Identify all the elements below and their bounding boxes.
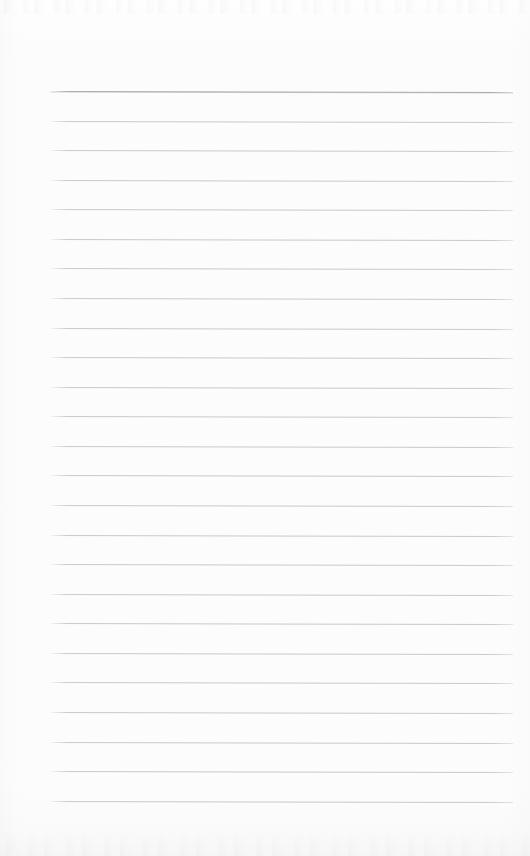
rule-line <box>50 268 513 270</box>
rule-line <box>50 594 513 596</box>
rule-line <box>50 712 513 714</box>
rule-line <box>50 357 513 359</box>
rule-line <box>50 180 513 182</box>
rule-line <box>50 801 513 803</box>
rule-line <box>50 328 513 330</box>
rule-line <box>50 475 513 477</box>
rule-line <box>50 535 513 537</box>
rule-line <box>50 150 513 152</box>
ruled-writing-area[interactable] <box>0 0 530 856</box>
rule-line <box>50 91 513 93</box>
rule-line <box>50 564 513 566</box>
rule-line <box>50 121 513 123</box>
rule-line <box>50 653 513 655</box>
rule-line <box>50 387 513 389</box>
rule-line <box>50 298 513 300</box>
rule-line <box>50 239 513 241</box>
rule-line <box>50 682 513 684</box>
rule-line <box>50 416 513 418</box>
rule-line <box>50 623 513 625</box>
rule-line <box>50 209 513 211</box>
rule-line <box>50 505 513 507</box>
rule-line <box>50 446 513 448</box>
rule-line <box>50 771 513 773</box>
rule-line <box>50 742 513 744</box>
scanned-notepad-page <box>0 0 530 856</box>
